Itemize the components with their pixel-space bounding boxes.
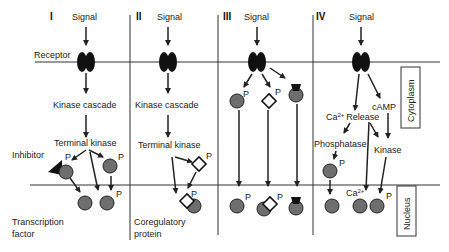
svg-text:P: P — [386, 191, 392, 201]
coregulatory-protein-icon — [192, 157, 206, 171]
receptor-icon — [159, 52, 177, 72]
panel-I: I Signal Receptor Kinase cascade Termina… — [12, 11, 124, 239]
inhibitor-label: Inhibitor — [12, 150, 44, 160]
protein-icon — [230, 94, 244, 108]
transcription-factor-icon — [78, 196, 92, 210]
nucleus-label: Nucleus — [402, 197, 412, 230]
signal-label: Signal — [157, 12, 182, 22]
panel-numeral: II — [136, 11, 142, 22]
transcription-factor-label-2: factor — [12, 229, 35, 239]
kinase-label: Kinase — [374, 145, 402, 155]
receptor-icon — [352, 52, 370, 72]
kinase-cascade-label: Kinase cascade — [135, 100, 199, 110]
kinase-cascade-label: Kinase cascade — [53, 100, 117, 110]
coregulatory-protein-label-2: protein — [134, 229, 162, 239]
svg-text:P: P — [243, 89, 249, 99]
svg-text:P: P — [277, 192, 283, 202]
signal-label: Signal — [244, 12, 269, 22]
signaling-diagram: Cytoplasm Nucleus I Signal Receptor Kina… — [0, 0, 449, 252]
receptor-icon — [77, 52, 95, 72]
transcription-factor-icon — [100, 196, 114, 210]
transcription-factor-icon — [59, 165, 73, 179]
svg-text:P: P — [275, 87, 281, 97]
coregulatory-protein-label: Coregulatory — [134, 217, 186, 227]
camp-label: cAMP — [372, 102, 396, 112]
svg-text:P: P — [116, 189, 122, 199]
svg-text:P: P — [191, 189, 197, 199]
protein-icon — [353, 199, 367, 213]
panel-IV: IV Signal cAMP Ca2+Release Phosphatase K… — [314, 11, 402, 213]
protein-icon — [325, 199, 339, 213]
protein-icon — [323, 164, 337, 178]
receptor-icon — [248, 52, 266, 72]
cytoplasm-label: Cytoplasm — [406, 79, 416, 122]
svg-text:P: P — [65, 152, 71, 162]
svg-text:P: P — [206, 151, 212, 161]
svg-text:P: P — [245, 192, 251, 202]
ca-release-label: Ca2+Release — [326, 112, 379, 122]
svg-text:P: P — [339, 158, 345, 168]
terminal-kinase-label: Terminal kinase — [138, 140, 201, 150]
terminal-kinase-label: Terminal kinase — [54, 138, 117, 148]
receptor-label: Receptor — [34, 50, 71, 60]
nucleus-box: Nucleus — [397, 186, 416, 236]
coregulatory-protein-icon — [262, 94, 276, 108]
svg-text:P: P — [118, 152, 124, 162]
signal-label: Signal — [72, 12, 97, 22]
signal-label: Signal — [349, 12, 374, 22]
protein-icon — [230, 199, 244, 213]
protein-icon — [370, 199, 384, 213]
panel-II: II Signal Kinase cascade Terminal kinase… — [134, 11, 212, 239]
transcription-factor-icon — [103, 159, 117, 173]
phosphatase-label: Phosphatase — [314, 139, 367, 149]
transcription-factor-label: Transcription — [12, 217, 64, 227]
panel-numeral: IV — [316, 11, 326, 22]
cytoplasm-box: Cytoplasm — [401, 67, 420, 128]
ca-label: Ca2+ — [346, 188, 365, 198]
panel-numeral: I — [50, 11, 53, 22]
panel-numeral: III — [223, 11, 232, 22]
